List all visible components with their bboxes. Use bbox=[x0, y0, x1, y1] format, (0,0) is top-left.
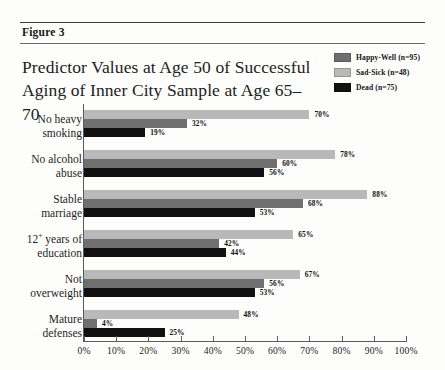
bar-value-label: 65% bbox=[298, 230, 313, 239]
x-axis-tick bbox=[213, 336, 214, 342]
bar-happy bbox=[84, 319, 97, 328]
x-axis-tick-label: 0% bbox=[77, 345, 90, 356]
x-axis-tick bbox=[116, 336, 117, 342]
header-rule-bottom bbox=[20, 43, 425, 44]
bar-value-label: 68% bbox=[308, 199, 323, 208]
x-axis-tick bbox=[245, 336, 246, 342]
bar-value-label: 25% bbox=[170, 328, 185, 337]
category-label: Maturedefenses bbox=[0, 313, 82, 340]
x-axis-tick-label: 50% bbox=[236, 345, 254, 356]
x-axis-tick-label: 20% bbox=[139, 345, 157, 356]
bar-value-label: 53% bbox=[260, 288, 275, 297]
category-label: No heavysmoking bbox=[0, 113, 82, 140]
bar-happy bbox=[84, 159, 277, 168]
category-label-line: marriage bbox=[0, 207, 82, 221]
bar-happy bbox=[84, 279, 264, 288]
bar-value-label: 32% bbox=[192, 119, 207, 128]
x-axis-tick bbox=[148, 336, 149, 342]
x-axis-tick bbox=[309, 336, 310, 342]
bar-value-label: 70% bbox=[314, 110, 329, 119]
bar-value-label: 56% bbox=[269, 279, 284, 288]
bar-value-label: 4% bbox=[102, 319, 113, 328]
bar-value-label: 53% bbox=[260, 208, 275, 217]
chart-title-line-1: Predictor Values at Age 50 of Successful bbox=[22, 56, 312, 79]
bar-value-label: 78% bbox=[340, 150, 355, 159]
bar-dead bbox=[84, 128, 145, 137]
category-label-line: Mature bbox=[0, 313, 82, 327]
bar-value-label: 60% bbox=[282, 159, 297, 168]
category-label-line: education bbox=[0, 247, 82, 261]
x-axis-tick bbox=[84, 336, 85, 342]
category-label-line: smoking bbox=[0, 127, 82, 141]
category-label-line: 12+ years of bbox=[0, 233, 82, 247]
x-axis-tick bbox=[277, 336, 278, 342]
legend-label-happy: Happy-Well (n=95) bbox=[356, 53, 420, 62]
bar-dead bbox=[84, 248, 226, 257]
bar-sad bbox=[84, 150, 335, 159]
legend-swatch-dead bbox=[334, 83, 351, 92]
category-label-line: Stable bbox=[0, 193, 82, 207]
legend-swatch-happy bbox=[334, 53, 351, 62]
legend-swatch-sad bbox=[334, 68, 351, 77]
chart-plot-area: No heavysmoking70%32%19%No alcoholabuse7… bbox=[0, 103, 445, 343]
x-axis-tick bbox=[374, 336, 375, 342]
bar-happy bbox=[84, 239, 219, 248]
x-axis-tick-label: 90% bbox=[365, 345, 383, 356]
category-label-line: defenses bbox=[0, 327, 82, 341]
category-label-line: abuse bbox=[0, 167, 82, 181]
chart-legend: Happy-Well (n=95)Sad-Sick (n=48)Dead (n=… bbox=[334, 52, 442, 97]
category-label: Notoverweight bbox=[0, 273, 82, 300]
bar-value-label: 67% bbox=[305, 270, 320, 279]
figure-header: Figure 3 bbox=[20, 22, 425, 44]
bar-value-label: 88% bbox=[372, 190, 387, 199]
category-label-line: No alcohol bbox=[0, 153, 82, 167]
category-label: Stablemarriage bbox=[0, 193, 82, 220]
bar-sad bbox=[84, 190, 367, 199]
x-axis-tick-label: 40% bbox=[204, 345, 222, 356]
x-axis-tick bbox=[342, 336, 343, 342]
x-axis-tick-label: 10% bbox=[107, 345, 125, 356]
x-axis-tick-label: 80% bbox=[333, 345, 351, 356]
x-axis-tick-label: 60% bbox=[268, 345, 286, 356]
x-axis-tick bbox=[406, 336, 407, 342]
legend-item-happy: Happy-Well (n=95) bbox=[334, 52, 442, 63]
bar-value-label: 48% bbox=[244, 310, 259, 319]
figure-card: Figure 3 Predictor Values at Age 50 of S… bbox=[0, 0, 445, 370]
bar-dead bbox=[84, 288, 255, 297]
category-label-line: overweight bbox=[0, 287, 82, 301]
figure-label: Figure 3 bbox=[20, 23, 425, 41]
category-label-line: Not bbox=[0, 273, 82, 287]
category-label-line: No heavy bbox=[0, 113, 82, 127]
x-axis-tick-label: 100% bbox=[394, 345, 417, 356]
legend-item-dead: Dead (n=75) bbox=[334, 82, 442, 93]
bar-happy bbox=[84, 119, 187, 128]
legend-label-sad: Sad-Sick (n=48) bbox=[356, 68, 409, 77]
x-axis-tick-label: 30% bbox=[172, 345, 190, 356]
bar-value-label: 44% bbox=[231, 248, 246, 257]
category-label: 12+ years ofeducation bbox=[0, 233, 82, 260]
bar-value-label: 42% bbox=[224, 239, 239, 248]
legend-label-dead: Dead (n=75) bbox=[356, 83, 397, 92]
bar-value-label: 19% bbox=[150, 128, 165, 137]
y-axis-line bbox=[83, 104, 84, 342]
bar-sad bbox=[84, 230, 293, 239]
bar-dead bbox=[84, 208, 255, 217]
bar-dead bbox=[84, 328, 165, 337]
category-label: No alcoholabuse bbox=[0, 153, 82, 180]
bar-dead bbox=[84, 168, 264, 177]
x-axis-tick bbox=[181, 336, 182, 342]
legend-item-sad: Sad-Sick (n=48) bbox=[334, 67, 442, 78]
bar-value-label: 56% bbox=[269, 168, 284, 177]
x-axis-tick-label: 70% bbox=[300, 345, 318, 356]
bar-sad bbox=[84, 270, 300, 279]
